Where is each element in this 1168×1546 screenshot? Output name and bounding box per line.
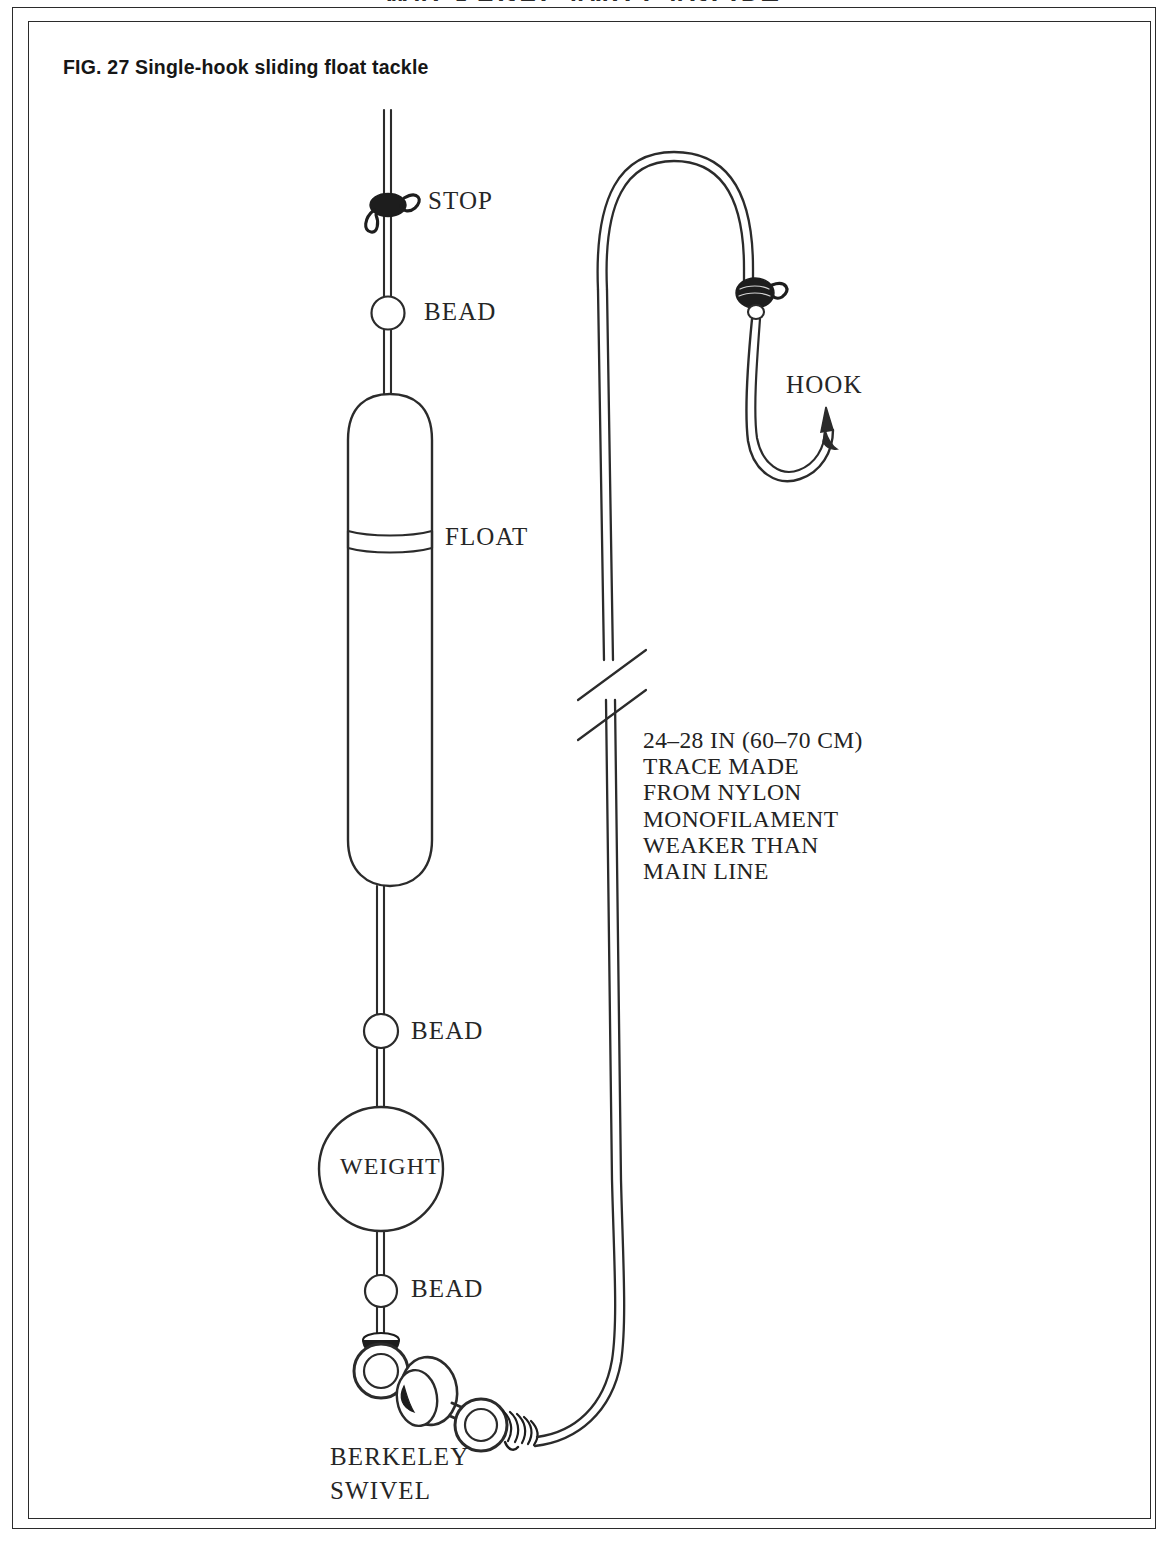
- trace-annotation-line-1: 24–28 IN (60–70 CM): [643, 727, 863, 753]
- trace-annotation-line-2: TRACE MADE: [643, 753, 863, 779]
- label-bead-middle: BEAD: [411, 1017, 483, 1045]
- running-head: MACKEREL AND GARFISH: [0, 0, 1168, 1]
- frame-inner-border: [28, 21, 1151, 1519]
- label-stop: STOP: [428, 187, 493, 215]
- figure-page: MACKEREL AND GARFISH FIG. 27 Single-hook…: [0, 0, 1168, 1546]
- trace-annotation-line-5: WEAKER THAN: [643, 832, 863, 858]
- figure-title: FIG. 27 Single-hook sliding float tackle: [63, 56, 429, 79]
- trace-annotation-line-6: MAIN LINE: [643, 858, 863, 884]
- trace-annotation-line-4: MONOFILAMENT: [643, 806, 863, 832]
- label-swivel: SWIVEL: [330, 1477, 431, 1505]
- trace-annotation-line-3: FROM NYLON: [643, 779, 863, 805]
- trace-annotation: 24–28 IN (60–70 CM) TRACE MADE FROM NYLO…: [643, 727, 863, 884]
- label-bead-lower: BEAD: [411, 1275, 483, 1303]
- label-float: FLOAT: [445, 523, 528, 551]
- label-berkeley: BERKELEY: [330, 1443, 469, 1471]
- label-bead-upper: BEAD: [424, 298, 496, 326]
- label-weight: WEIGHT: [340, 1153, 441, 1180]
- label-hook: HOOK: [786, 371, 863, 399]
